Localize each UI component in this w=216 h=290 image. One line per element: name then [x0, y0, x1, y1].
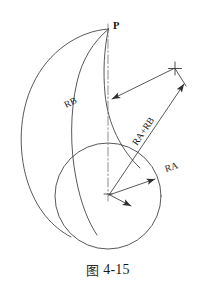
caption-number: 4-15 [103, 263, 129, 277]
dimension-line-ra [109, 179, 155, 195]
inner-long-arc [72, 29, 109, 235]
cross-marker-icon [169, 62, 182, 75]
label-point-p: P [113, 20, 120, 31]
figure-caption: 图 4-15 [0, 258, 216, 282]
caption-glyph: 图 [86, 264, 99, 277]
outer-spiral-arc [21, 29, 108, 237]
dimension-line-ra-plus-rb [109, 84, 184, 195]
label-radius-a: RA [164, 160, 180, 174]
dimension-line-rb [112, 69, 174, 100]
upper-right-arc [104, 29, 140, 168]
figure-container: P RB RA+RB RA 图 4-15 [0, 0, 216, 290]
technical-drawing: P RB RA+RB RA [0, 0, 216, 290]
label-radius-b: RB [62, 95, 78, 110]
wedge-leg [108, 194, 131, 206]
cross-to-sum-connector [175, 69, 186, 87]
drawing-geometry [21, 24, 186, 249]
